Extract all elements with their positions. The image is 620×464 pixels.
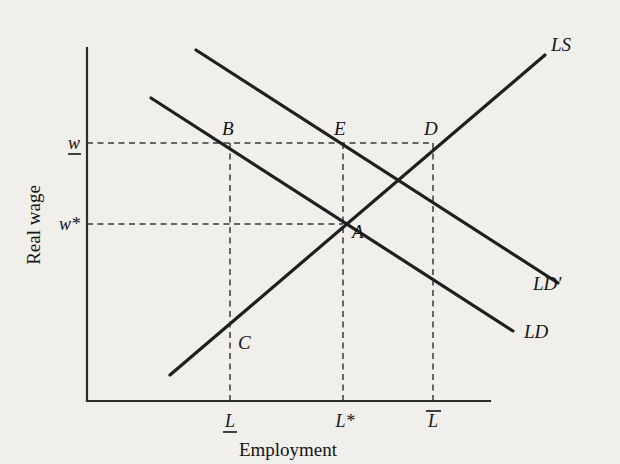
curve-label-ld-prime: LD′ — [532, 273, 562, 294]
point-label-d: D — [423, 118, 438, 139]
curve-label-ls: LS — [550, 34, 572, 55]
curve-ld-prime — [196, 50, 558, 283]
y-tick-label-w-star: w* — [59, 214, 80, 234]
curve-ld — [151, 98, 513, 331]
point-labels-group: A B C D E — [222, 118, 438, 353]
point-label-a: A — [350, 221, 364, 242]
curves-group — [151, 50, 558, 375]
guide-lines-group — [87, 143, 433, 401]
x-tick-label-L-over: L — [427, 411, 438, 431]
curve-labels-group: LD LD′ LS — [523, 34, 572, 342]
curve-label-ld: LD — [523, 321, 549, 342]
curve-ls — [170, 55, 545, 375]
diagram-canvas: LD LD′ LS A B C D E w w* L L* L Re — [0, 0, 620, 464]
point-label-c: C — [238, 332, 251, 353]
point-label-e: E — [333, 118, 346, 139]
x-tick-label-L-under: L — [224, 411, 235, 431]
y-tick-label-w-bar: w — [68, 133, 80, 153]
labor-market-diagram: LD LD′ LS A B C D E w w* L L* L Re — [0, 0, 620, 464]
y-axis-title: Real wage — [23, 185, 44, 265]
x-tick-label-L-star: L* — [334, 411, 354, 431]
x-tick-labels-group: L L* L — [223, 411, 441, 432]
point-label-b: B — [222, 118, 234, 139]
x-axis-title: Employment — [239, 439, 338, 460]
y-tick-labels-group: w w* — [59, 133, 81, 234]
